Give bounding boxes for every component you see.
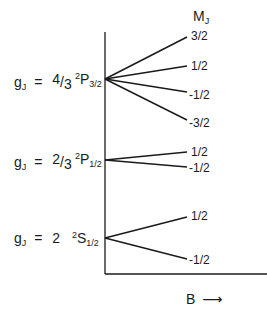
g-denominator: 3 [64, 156, 72, 172]
mj-label: 1/2 [191, 210, 208, 222]
mj-header-text: M [193, 8, 205, 24]
g-numerator: 4 [52, 71, 60, 87]
g-numerator: 2 [52, 151, 60, 167]
equals-sign: = [34, 154, 42, 170]
mj-label: -1/2 [189, 254, 210, 266]
g-symbol: g [14, 154, 22, 170]
term-letter: P [80, 71, 89, 87]
axis-label-b: B ⟶ [186, 292, 222, 306]
g-factor-2p1-2: gJ = 2/3 [14, 152, 72, 172]
mj-label: 3/2 [191, 30, 208, 42]
term-2p1-2: 2P1/2 [75, 152, 102, 169]
mj-header: MJ [193, 9, 209, 26]
term-j: 1/2 [89, 159, 102, 169]
mj-label: -1/2 [189, 89, 210, 101]
arrow-right-icon: ⟶ [202, 291, 222, 307]
mj-header-sub: J [205, 16, 210, 26]
splitting-2p3-2 [105, 37, 187, 120]
term-letter: S [77, 230, 86, 246]
term-letter: P [80, 151, 89, 167]
g-sub: J [22, 82, 27, 92]
term-j: 1/2 [86, 238, 99, 248]
g-symbol: g [14, 74, 22, 90]
g-sub: J [22, 238, 27, 248]
splitting-2s1-2 [105, 217, 187, 259]
g-factor-2p3-2: gJ = 4/3 [14, 72, 72, 92]
equals-sign: = [34, 74, 42, 90]
g-denominator: 3 [64, 76, 72, 92]
term-2p3-2: 2P3/2 [75, 72, 102, 89]
mj-label: 1/2 [191, 146, 208, 158]
term-2s1-2: 2S1/2 [72, 231, 99, 248]
g-value: 2 [52, 230, 60, 246]
equals-sign: = [34, 230, 42, 246]
splitting-2p1-2 [105, 152, 187, 167]
g-symbol: g [14, 230, 22, 246]
mj-label: -3/2 [189, 117, 210, 129]
mj-label: 1/2 [191, 60, 208, 72]
field-b-text: B [186, 291, 195, 307]
mj-label: -1/2 [189, 162, 210, 174]
g-sub: J [22, 162, 27, 172]
g-factor-2s1-2: gJ = 2 [14, 231, 60, 248]
term-j: 3/2 [89, 79, 102, 89]
